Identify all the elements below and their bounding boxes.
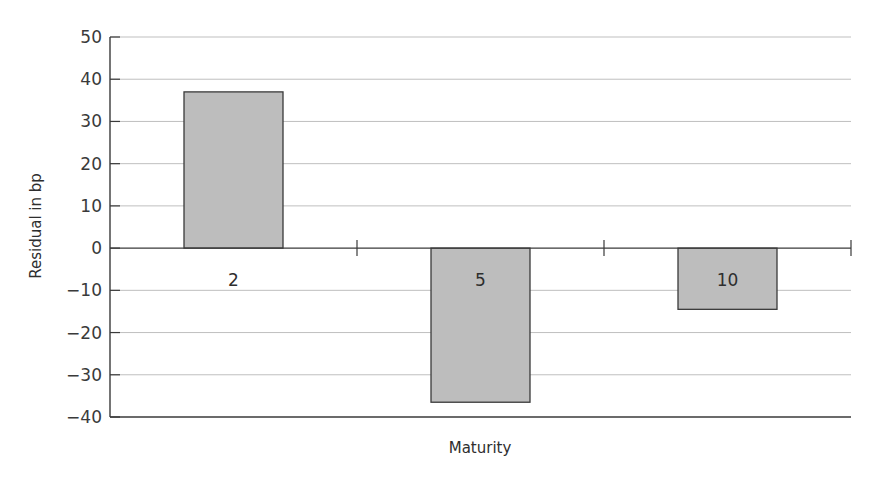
bars xyxy=(184,92,777,402)
y-axis-title: Residual in bp xyxy=(27,173,45,279)
category-label: 2 xyxy=(228,270,239,290)
y-tick-label: 10 xyxy=(80,196,102,216)
category-label: 5 xyxy=(475,270,486,290)
y-tick-label: −40 xyxy=(66,407,102,427)
residual-bar-chart: 50403020100−10−20−30−40 2510 Maturity Re… xyxy=(0,0,872,477)
y-tick-labels: 50403020100−10−20−30−40 xyxy=(66,27,102,427)
y-tick-label: 20 xyxy=(80,154,102,174)
bar-maturity-2 xyxy=(184,92,283,248)
y-tick-label: −10 xyxy=(66,280,102,300)
y-tick-label: 30 xyxy=(80,111,102,131)
category-label: 10 xyxy=(717,270,739,290)
y-tick-label: 50 xyxy=(80,27,102,47)
x-axis-title: Maturity xyxy=(449,439,512,457)
y-tick-label: 40 xyxy=(80,69,102,89)
y-tick-label: −20 xyxy=(66,323,102,343)
y-tick-label: 0 xyxy=(91,238,102,258)
y-tick-label: −30 xyxy=(66,365,102,385)
category-labels: 2510 xyxy=(228,270,738,290)
